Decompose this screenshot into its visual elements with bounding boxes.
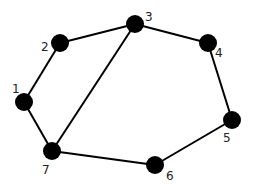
node-3	[126, 15, 144, 33]
node-6	[146, 156, 164, 174]
node-5	[223, 111, 241, 129]
graph-diagram: 1234567	[0, 0, 253, 190]
node-label-6: 6	[166, 169, 174, 183]
edge-3-4	[135, 24, 208, 43]
node-label-1: 1	[12, 82, 20, 96]
node-7	[43, 142, 61, 160]
edge-5-6	[155, 120, 232, 165]
nodes-group	[15, 15, 241, 174]
node-label-5: 5	[223, 131, 231, 145]
node-label-2: 2	[41, 40, 49, 54]
edge-6-7	[52, 151, 155, 165]
node-label-4: 4	[215, 46, 223, 60]
node-label-3: 3	[145, 10, 153, 24]
node-2	[51, 34, 69, 52]
node-label-7: 7	[42, 163, 50, 177]
labels-group: 1234567	[12, 10, 231, 183]
